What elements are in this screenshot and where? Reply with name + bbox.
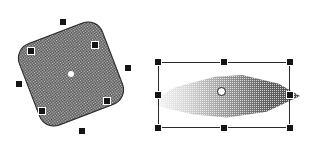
handle-top-left[interactable] bbox=[28, 48, 34, 54]
handle-bottom-right[interactable] bbox=[104, 98, 110, 104]
editor-canvas[interactable]: Rotated rounded polygon filled with dark… bbox=[0, 0, 311, 146]
handle-bottom-left[interactable] bbox=[155, 125, 161, 131]
gradient-lens-shape-object[interactable]: Horizontal lens shape filled with a left… bbox=[146, 56, 302, 136]
handle-top[interactable] bbox=[60, 19, 66, 25]
handle-top-right[interactable] bbox=[92, 42, 98, 48]
handle-top-left[interactable] bbox=[155, 59, 161, 65]
handle-middle-right[interactable] bbox=[287, 92, 293, 98]
handle-middle-left[interactable] bbox=[155, 92, 161, 98]
center-marker-dot bbox=[68, 71, 74, 77]
handle-left[interactable] bbox=[16, 81, 22, 87]
handle-bottom-left[interactable] bbox=[39, 108, 45, 114]
handle-top-right[interactable] bbox=[287, 59, 293, 65]
rotated-halftone-shape-object[interactable]: Rotated rounded polygon filled with dark… bbox=[12, 14, 130, 134]
center-marker-circle bbox=[217, 87, 226, 96]
handle-bottom-right[interactable] bbox=[287, 125, 293, 131]
handle-bottom-center[interactable] bbox=[221, 125, 227, 131]
rotated-halftone-shape[interactable] bbox=[12, 14, 130, 134]
handle-bottom[interactable] bbox=[79, 128, 85, 134]
handle-right[interactable] bbox=[125, 65, 131, 71]
handle-top-center[interactable] bbox=[221, 59, 227, 65]
